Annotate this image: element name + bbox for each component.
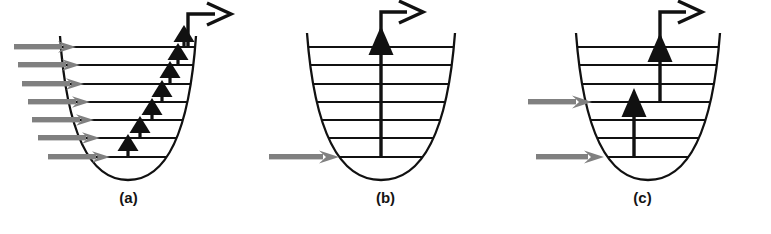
panel-a: (a) xyxy=(0,0,257,234)
incoming-arrow-4 xyxy=(528,96,592,109)
escape-arrow-a xyxy=(188,3,231,47)
incoming-arrows-b xyxy=(269,151,339,164)
transition-arrow-1 xyxy=(622,88,647,157)
panel-c: (c) xyxy=(514,0,771,234)
incoming-arrow-1 xyxy=(269,151,339,164)
incoming-arrow-2 xyxy=(38,132,100,144)
incoming-arrow-7 xyxy=(14,41,76,53)
incoming-arrow-5 xyxy=(22,78,84,90)
excitation-diagram-figure: (a) xyxy=(0,0,771,234)
incoming-arrow-1 xyxy=(48,151,110,163)
escape-arrow-c xyxy=(660,1,702,47)
panel-b: (b) xyxy=(257,0,514,234)
incoming-arrow-4 xyxy=(28,96,90,108)
panel-a-label: (a) xyxy=(0,189,257,206)
incoming-arrow-1 xyxy=(536,151,604,164)
transition-arrow-7 xyxy=(174,25,195,48)
escape-arrow-b xyxy=(381,1,423,40)
incoming-arrow-6 xyxy=(18,59,80,71)
panel-b-label: (b) xyxy=(257,189,514,206)
panel-c-label: (c) xyxy=(514,189,771,206)
incoming-arrow-3 xyxy=(32,114,94,126)
